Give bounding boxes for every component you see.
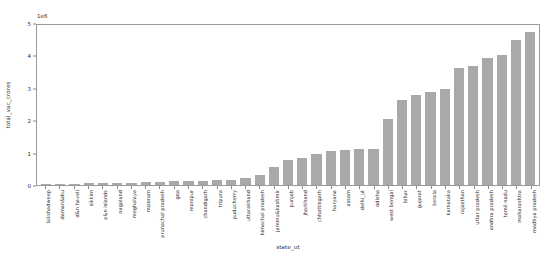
bar-slot: [53, 25, 67, 185]
bar-slot: [495, 25, 509, 185]
bar-slot: [423, 25, 437, 185]
x-tick-slot: daman&diu: [52, 186, 66, 242]
x-tick-slot: gujarat: [409, 186, 423, 242]
x-tick-slot: madhya pradesh: [524, 186, 538, 242]
x-tick-label: tamil nadu: [502, 190, 508, 217]
x-tick-label: chandigarh: [202, 190, 208, 219]
x-tick-label: tripura: [217, 190, 223, 207]
bar[interactable]: [112, 183, 122, 185]
bar-slot: [295, 25, 309, 185]
x-axis-ticks: lakshadweepdaman&diud&n havelisikkima&n …: [36, 186, 540, 242]
x-tick-mark: [74, 186, 75, 189]
x-tick-label: andhra pradesh: [488, 190, 494, 230]
x-tick-mark: [159, 186, 160, 189]
x-tick-mark: [102, 186, 103, 189]
bar-slot: [324, 25, 338, 185]
bar-slot: [238, 25, 252, 185]
bar[interactable]: [383, 119, 393, 185]
y-tick-label: 0: [28, 183, 32, 189]
bar[interactable]: [240, 178, 250, 185]
x-tick-slot: assam: [338, 186, 352, 242]
x-tick-label: goa: [174, 190, 180, 199]
x-tick-label: west bengal: [388, 190, 394, 221]
x-tick-label: maharashtra: [516, 190, 522, 223]
bar-slot: [438, 25, 452, 185]
x-tick-slot: himachal pradesh: [252, 186, 266, 242]
x-tick-label: jammu&kashmir: [274, 190, 280, 232]
x-tick-label: d&n haveli: [74, 190, 80, 217]
x-tick-slot: maharashtra: [509, 186, 523, 242]
x-tick-label: lakshadweep: [45, 190, 51, 223]
bar-slot: [366, 25, 380, 185]
x-tick-slot: uttar pradesh: [466, 186, 480, 242]
bar[interactable]: [212, 180, 222, 185]
bar[interactable]: [368, 149, 378, 185]
x-tick-label: uttarakhand: [245, 190, 251, 221]
x-tick-mark: [331, 186, 332, 189]
bar[interactable]: [511, 40, 521, 185]
x-tick-mark: [359, 186, 360, 189]
bar-slot: [253, 25, 267, 185]
bar[interactable]: [525, 32, 535, 185]
bar[interactable]: [226, 180, 236, 185]
bar[interactable]: [482, 58, 492, 185]
bar[interactable]: [84, 183, 94, 185]
bar[interactable]: [255, 175, 265, 185]
bar[interactable]: [126, 183, 136, 185]
bar[interactable]: [326, 151, 336, 185]
x-tick-label: punjab: [288, 190, 294, 207]
y-tick-label: 1: [28, 151, 32, 157]
bar[interactable]: [141, 182, 151, 185]
x-tick-label: bihar: [402, 190, 408, 203]
bar[interactable]: [397, 100, 407, 185]
bar[interactable]: [297, 158, 307, 185]
bar-slot: [309, 25, 323, 185]
x-tick-label: jharkhand: [302, 190, 308, 216]
x-tick-mark: [145, 186, 146, 189]
bar-slot: [153, 25, 167, 185]
y-tick-label: 3: [28, 86, 32, 92]
x-tick-slot: puducherry: [224, 186, 238, 242]
x-tick-label: meghalaya: [131, 190, 137, 218]
bar[interactable]: [55, 184, 65, 185]
y-tick-label: 4: [28, 53, 32, 59]
bar[interactable]: [440, 89, 450, 185]
bar[interactable]: [283, 160, 293, 185]
bar[interactable]: [468, 66, 478, 185]
x-tick-mark: [188, 186, 189, 189]
bar[interactable]: [198, 181, 208, 185]
x-tick-label: a&n islands: [102, 190, 108, 220]
x-tick-mark: [217, 186, 218, 189]
bar-slot: [39, 25, 53, 185]
x-tick-slot: karnataka: [438, 186, 452, 242]
x-tick-slot: chhattisgarh: [309, 186, 323, 242]
bar[interactable]: [454, 68, 464, 185]
bar-slot: [466, 25, 480, 185]
bar[interactable]: [69, 184, 79, 185]
bar[interactable]: [269, 167, 279, 185]
bars-container: [37, 25, 539, 185]
bar[interactable]: [340, 150, 350, 185]
x-tick-mark: [259, 186, 260, 189]
x-tick-mark: [288, 186, 289, 189]
bar[interactable]: [183, 181, 193, 185]
bar[interactable]: [425, 92, 435, 185]
bar[interactable]: [354, 149, 364, 185]
x-tick-slot: punjab: [281, 186, 295, 242]
bar[interactable]: [411, 95, 421, 185]
x-tick-label: delhi_ut: [359, 190, 365, 210]
bar[interactable]: [169, 181, 179, 185]
bar[interactable]: [155, 182, 165, 185]
bar-slot: [480, 25, 494, 185]
x-tick-slot: kerala: [424, 186, 438, 242]
x-tick-slot: andhra pradesh: [481, 186, 495, 242]
bar[interactable]: [98, 183, 108, 185]
bar[interactable]: [311, 154, 321, 185]
x-tick-slot: meghalaya: [124, 186, 138, 242]
x-tick-label: odisha: [374, 190, 380, 207]
x-tick-slot: sikkim: [81, 186, 95, 242]
x-tick-slot: d&n haveli: [67, 186, 81, 242]
bar[interactable]: [41, 184, 51, 185]
bar-slot: [452, 25, 466, 185]
bar[interactable]: [497, 55, 507, 185]
